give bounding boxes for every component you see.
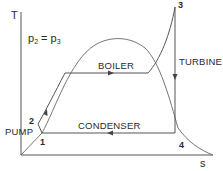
boiler-arrow-icon (108, 71, 114, 76)
point-3-label: 3 (178, 1, 183, 10)
eq-rhs-sub: 3 (57, 38, 61, 45)
eq-op: = (38, 32, 51, 44)
diagram-canvas (0, 0, 223, 171)
turbine-label: TURBINE (179, 57, 222, 67)
pressure-equation: p2 = p3 (28, 33, 61, 45)
condenser-arrow-icon (107, 131, 113, 136)
pump-line (38, 73, 65, 133)
point-1-label: 1 (40, 138, 45, 147)
point-4-label: 4 (179, 141, 184, 150)
x-axis-label: s (200, 158, 206, 169)
turbine-arrow-icon (173, 74, 178, 80)
ts-diagram: T s p2 = p3 3 2 1 4 BOILER TURBINE CONDE… (0, 0, 223, 171)
y-axis-label: T (11, 10, 18, 21)
boiler-label: BOILER (98, 61, 134, 71)
superheat-curve (148, 7, 175, 73)
pump-label: PUMP (5, 127, 33, 137)
condenser-label: CONDENSER (78, 121, 141, 131)
point-2-label: 2 (29, 117, 34, 126)
